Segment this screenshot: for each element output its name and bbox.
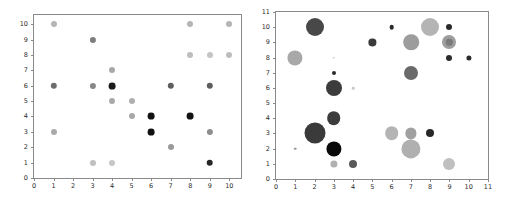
tick-mark [31, 24, 34, 25]
data-point [207, 129, 213, 135]
tick-mark [171, 178, 172, 181]
data-point [446, 55, 452, 61]
tick-mark [151, 178, 152, 181]
tick-mark [273, 118, 276, 119]
tick-mark [449, 179, 450, 182]
x-tick-label: 4 [110, 182, 114, 190]
y-tick-label: 9 [24, 36, 28, 44]
x-tick-label: 7 [409, 183, 413, 191]
y-tick-label: 2 [24, 143, 28, 151]
data-point [405, 128, 416, 139]
data-point [226, 52, 232, 58]
y-tick-label: 10 [20, 20, 28, 28]
data-point [167, 83, 173, 89]
tick-mark [210, 178, 211, 181]
x-tick-label: 4 [351, 183, 355, 191]
data-point [89, 83, 95, 89]
tick-mark [273, 179, 276, 180]
tick-mark [273, 149, 276, 150]
data-point [207, 83, 213, 89]
x-tick-label: 2 [312, 183, 316, 191]
y-tick-label: 2 [266, 145, 270, 153]
x-tick-label: 11 [484, 183, 492, 191]
figure-canvas: 012345678910 012345678910 01234567891011… [0, 0, 505, 206]
tick-mark [372, 179, 373, 182]
data-point [50, 83, 56, 89]
data-point [288, 50, 303, 65]
tick-mark [31, 163, 34, 164]
data-point [294, 147, 297, 150]
x-tick-label: 5 [130, 182, 134, 190]
data-point [389, 25, 394, 30]
data-point [446, 24, 452, 30]
data-point [148, 113, 155, 120]
tick-mark [469, 179, 470, 182]
data-point [187, 52, 193, 58]
x-tick-label: 0 [274, 183, 278, 191]
right-data-points [276, 12, 488, 179]
tick-mark [229, 178, 230, 181]
data-point [306, 18, 324, 36]
tick-mark [295, 179, 296, 182]
y-tick-label: 1 [24, 159, 28, 167]
right-scatter-panel: 01234567891011 01234567891011 [253, 0, 505, 206]
data-point [129, 98, 135, 104]
data-point [226, 21, 232, 27]
y-tick-label: 6 [266, 84, 270, 92]
tick-mark [31, 55, 34, 56]
tick-mark [31, 178, 34, 179]
y-tick-label: 4 [24, 112, 28, 120]
data-point [109, 98, 115, 104]
data-point [466, 55, 471, 60]
tick-mark [273, 42, 276, 43]
tick-mark [112, 178, 113, 181]
left-data-points [34, 15, 241, 178]
tick-mark [392, 179, 393, 182]
tick-mark [132, 178, 133, 181]
y-tick-label: 8 [24, 51, 28, 59]
tick-mark [31, 70, 34, 71]
data-point [90, 160, 96, 166]
data-point [51, 129, 57, 135]
data-point [369, 39, 376, 46]
x-tick-label: 6 [390, 183, 394, 191]
x-tick-label: 3 [91, 182, 95, 190]
data-point [129, 113, 135, 119]
x-tick-label: 9 [208, 182, 212, 190]
data-point [421, 18, 439, 36]
y-tick-label: 5 [266, 99, 270, 107]
y-tick-label: 6 [24, 82, 28, 90]
x-tick-label: 1 [51, 182, 55, 190]
right-plot-area: 01234567891011 01234567891011 [275, 11, 489, 180]
y-tick-label: 7 [24, 66, 28, 74]
x-tick-label: 2 [71, 182, 75, 190]
data-point [401, 139, 420, 158]
y-tick-label: 0 [266, 175, 270, 183]
tick-mark [31, 40, 34, 41]
y-tick-label: 3 [266, 129, 270, 137]
data-point [404, 66, 418, 80]
tick-mark [411, 179, 412, 182]
left-scatter-panel: 012345678910 012345678910 [0, 0, 253, 206]
x-tick-label: 0 [32, 182, 36, 190]
data-point [207, 52, 213, 58]
data-point [326, 80, 342, 96]
y-tick-label: 9 [266, 38, 270, 46]
y-tick-label: 10 [262, 23, 270, 31]
data-point [187, 21, 193, 27]
x-tick-label: 8 [188, 182, 192, 190]
y-tick-label: 1 [266, 160, 270, 168]
x-tick-label: 7 [169, 182, 173, 190]
tick-mark [273, 58, 276, 59]
data-point [109, 67, 115, 73]
data-point [352, 87, 355, 90]
tick-mark [93, 178, 94, 181]
data-point [51, 21, 57, 27]
tick-mark [31, 147, 34, 148]
data-point [333, 56, 336, 59]
data-point [109, 82, 116, 89]
x-tick-label: 10 [225, 182, 233, 190]
tick-mark [273, 27, 276, 28]
y-tick-label: 3 [24, 128, 28, 136]
y-tick-label: 8 [266, 54, 270, 62]
